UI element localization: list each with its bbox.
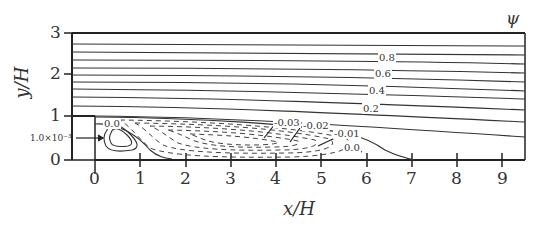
corner-vortex-label: 1.0×10⁻³	[30, 133, 72, 143]
streamline-plot	[0, 0, 538, 231]
x-tick-3: 3	[225, 168, 236, 188]
x-tick-7: 7	[406, 168, 417, 188]
contour-label-minus-0.01: -0.01	[333, 128, 361, 139]
x-tick-8: 8	[451, 168, 462, 188]
x-tick-4: 4	[270, 168, 281, 188]
x-tick-2: 2	[180, 168, 191, 188]
contour-label-0.2: 0.2	[362, 103, 380, 114]
x-tick-9: 9	[497, 168, 508, 188]
contour-label-0.6: 0.6	[374, 68, 392, 79]
contour-label-0.4: 0.4	[368, 85, 386, 96]
corner-vortex	[95, 124, 172, 159]
y-axis-title: y/H	[11, 67, 32, 99]
x-tick-1: 1	[135, 168, 146, 188]
y-tick-0: 0	[50, 149, 61, 169]
y-tick-2: 2	[50, 63, 61, 83]
contour-label-minus-0.02: -0.02	[302, 120, 330, 131]
contour-label-0.8: 0.8	[378, 52, 396, 63]
y-tick-1: 1	[50, 105, 61, 125]
contour-label-0.0-bottom: 0.0	[343, 142, 361, 153]
x-tick-5: 5	[316, 168, 327, 188]
y-tick-3: 3	[50, 22, 61, 42]
psi-label: ψ	[506, 8, 519, 28]
x-axis-title: x/H	[283, 198, 315, 219]
x-tick-6: 6	[361, 168, 372, 188]
contour-label-0.0-top: 0.0	[103, 118, 121, 129]
x-tick-0: 0	[89, 168, 100, 188]
contour-label-minus-0.03: -0.03	[273, 117, 301, 128]
